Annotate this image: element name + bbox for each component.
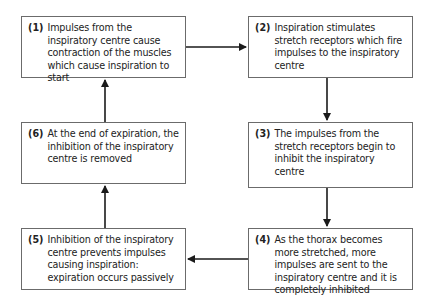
step-6-box: (6) At the end of expiration, the inhibi… bbox=[21, 122, 186, 184]
step-3-box: (3) The impulses from the stretch recept… bbox=[248, 122, 413, 188]
step-4-box: (4) As the thorax becomes more stretched… bbox=[248, 228, 413, 290]
step-5-text: Inhibition of the inspiratory centre pre… bbox=[47, 234, 179, 285]
step-4-text: As the thorax becomes more stretched, mo… bbox=[274, 234, 406, 285]
step-5-number: (5) bbox=[28, 234, 43, 285]
step-2-number: (2) bbox=[255, 22, 270, 73]
step-6-text: At the end of expiration, the inhibition… bbox=[47, 128, 179, 179]
step-3-text: The impulses from the stretch receptors … bbox=[274, 128, 406, 183]
step-2-box: (2) Inspiration stimulates stretch recep… bbox=[248, 16, 413, 78]
step-4-number: (4) bbox=[255, 234, 270, 285]
step-2-text: Inspiration stimulates stretch receptors… bbox=[274, 22, 406, 73]
step-1-number: (1) bbox=[28, 22, 43, 73]
step-6-number: (6) bbox=[28, 128, 43, 179]
step-1-text: Impulses from the inspiratory centre cau… bbox=[47, 22, 179, 73]
step-1-box: (1) Impulses from the inspiratory centre… bbox=[21, 16, 186, 78]
step-5-box: (5) Inhibition of the inspiratory centre… bbox=[21, 228, 186, 290]
step-3-number: (3) bbox=[255, 128, 270, 183]
